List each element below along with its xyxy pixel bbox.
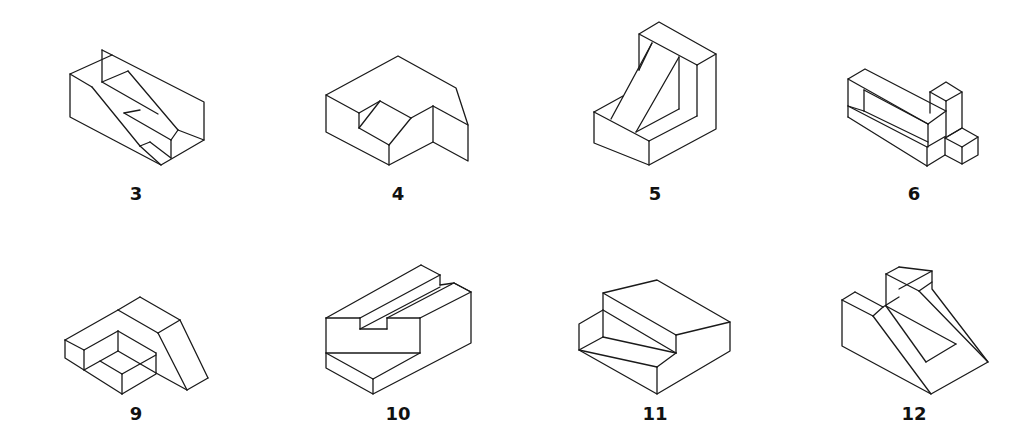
figure-5-drawing [594, 22, 716, 165]
figure-3-drawing [70, 50, 204, 165]
figure-9-drawing [65, 297, 208, 394]
figures-canvas [0, 0, 1024, 426]
figure-4-drawing [326, 56, 468, 165]
figure-label: 11 [642, 403, 667, 424]
figure-6-drawing [848, 69, 978, 166]
figure-12-drawing [842, 267, 988, 394]
figure-label: 5 [649, 183, 662, 204]
figure-label: 6 [908, 183, 921, 204]
figure-label: 4 [392, 183, 405, 204]
figure-label: 10 [385, 403, 410, 424]
figure-10-drawing [326, 265, 471, 394]
figure-label: 9 [130, 403, 143, 424]
figure-11-drawing [579, 280, 730, 394]
figure-label: 12 [901, 403, 926, 424]
figure-label: 3 [130, 183, 143, 204]
